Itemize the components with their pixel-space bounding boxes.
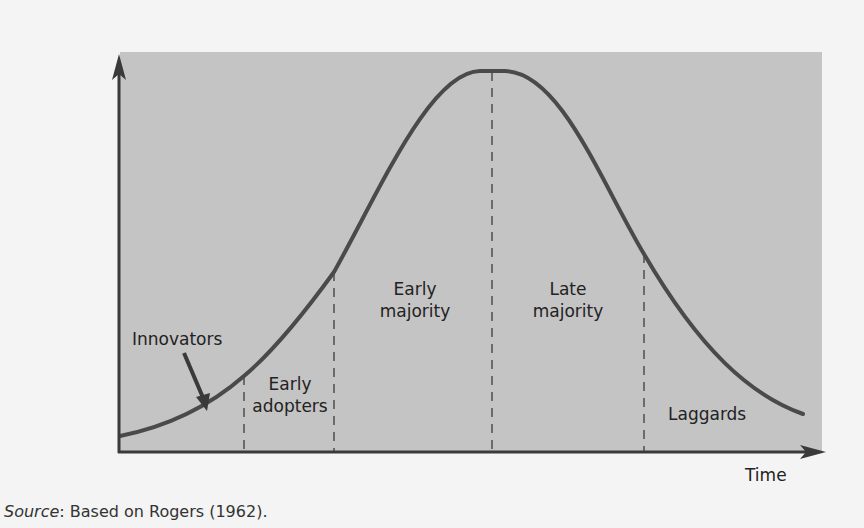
- source-caption: Source: Based on Rogers (1962).: [4, 502, 267, 521]
- label-laggards: Laggards: [668, 403, 746, 425]
- adoption-curve-diagram: [0, 0, 864, 528]
- label-early-adopters: Early adopters: [248, 373, 332, 417]
- label-early-adopters-line1: Early: [248, 373, 332, 395]
- label-late-majority: Late majority: [518, 278, 618, 322]
- x-axis-label: Time: [745, 464, 787, 486]
- label-innovators: Innovators: [132, 328, 222, 350]
- label-early-majority: Early majority: [365, 278, 465, 322]
- caption-source-prefix: Source: [4, 502, 59, 521]
- caption-source-text: : Based on Rogers (1962).: [59, 502, 267, 521]
- label-late-majority-line2: majority: [518, 300, 618, 322]
- label-early-majority-line1: Early: [365, 278, 465, 300]
- label-early-majority-line2: majority: [365, 300, 465, 322]
- label-late-majority-line1: Late: [518, 278, 618, 300]
- label-early-adopters-line2: adopters: [248, 395, 332, 417]
